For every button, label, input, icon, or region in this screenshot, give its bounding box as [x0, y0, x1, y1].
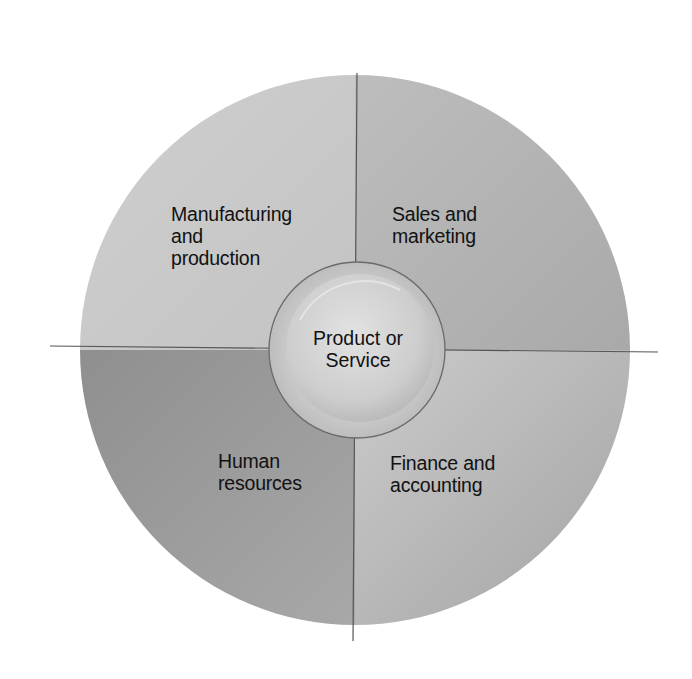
label-finance-and-accounting: Finance and accounting — [390, 452, 495, 496]
label-product-or-service: Product or Service — [278, 327, 438, 371]
label-sales-and-marketing: Sales and marketing — [392, 203, 477, 247]
label-manufacturing-and-production: Manufacturing and production — [171, 203, 292, 269]
label-human-resources: Human resources — [218, 450, 302, 494]
